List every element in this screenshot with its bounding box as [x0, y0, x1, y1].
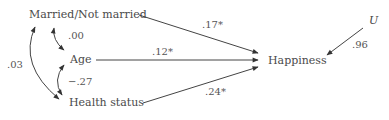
coef-age-happiness: .12*: [152, 46, 173, 57]
path-health-happiness: [143, 67, 258, 103]
coef-married-age: .00: [68, 30, 84, 41]
node-happiness: Happiness: [268, 54, 327, 67]
coef-married-happiness: .17*: [202, 19, 223, 30]
coef-health-happiness: .24*: [205, 86, 226, 97]
node-married: Married/Not married: [29, 8, 147, 21]
coef-married-health: .03: [7, 59, 23, 70]
coef-age-health: −.27: [68, 76, 92, 87]
coef-u-happiness: .96: [352, 39, 368, 50]
node-health-status: Health status: [69, 96, 144, 109]
correlation-age-health: [57, 65, 64, 95]
path-diagram: Married/Not married Age Health status Ha…: [0, 0, 389, 120]
node-age: Age: [69, 53, 92, 66]
node-u: U: [369, 14, 379, 27]
correlation-married-age: [54, 28, 64, 50]
